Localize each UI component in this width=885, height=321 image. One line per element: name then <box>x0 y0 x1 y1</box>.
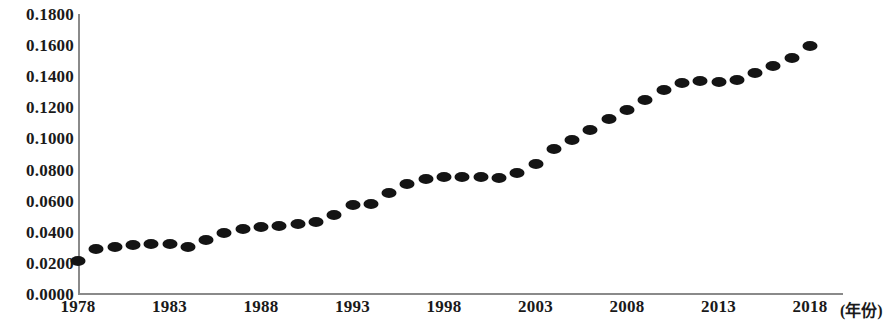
data-point <box>455 172 470 182</box>
data-point <box>473 172 488 182</box>
data-point <box>601 114 616 124</box>
data-point <box>784 53 799 63</box>
data-point <box>638 95 653 105</box>
data-point <box>327 210 342 220</box>
data-point <box>290 219 305 229</box>
data-point <box>345 200 360 210</box>
data-point <box>546 144 561 154</box>
x-axis-tick-label: 2018 <box>793 297 828 317</box>
data-point <box>254 222 269 232</box>
data-point <box>107 242 122 252</box>
x-axis-tick-label: 1998 <box>427 297 462 317</box>
data-point <box>382 188 397 198</box>
data-point <box>656 85 671 95</box>
data-point <box>620 105 635 115</box>
data-point <box>162 239 177 249</box>
x-axis-tick-label: 2008 <box>610 297 645 317</box>
data-point <box>363 199 378 209</box>
y-axis-tick-label: 0.0800 <box>2 161 74 178</box>
data-point <box>510 168 525 178</box>
y-axis-tick-label: 0.0200 <box>2 254 74 271</box>
x-axis-line <box>78 293 843 295</box>
y-axis-tick-label: 0.1600 <box>2 37 74 54</box>
data-point <box>491 173 506 183</box>
y-axis-tick-labels: 0.00000.02000.04000.06000.08000.10000.12… <box>0 0 74 319</box>
x-axis-tick-label: 2003 <box>518 297 553 317</box>
data-point <box>418 174 433 184</box>
data-point <box>583 125 598 135</box>
data-point <box>528 159 543 169</box>
data-point <box>217 228 232 238</box>
x-axis-unit-label: (年份) <box>840 297 883 321</box>
x-axis-tick-label: 2013 <box>701 297 736 317</box>
data-point <box>199 235 214 245</box>
data-point <box>235 224 250 234</box>
x-axis-tick-label: 1983 <box>152 297 187 317</box>
x-axis-tick-labels: 197819831988199319982003200820132018 <box>0 297 885 319</box>
data-point <box>729 75 744 85</box>
x-axis-tick-label: 1978 <box>61 297 96 317</box>
data-point <box>125 240 140 250</box>
y-axis-tick-label: 0.0400 <box>2 223 74 240</box>
x-axis-tick-label: 1993 <box>335 297 370 317</box>
data-point <box>748 68 763 78</box>
data-point <box>437 172 452 182</box>
data-point <box>693 76 708 86</box>
y-axis-tick-label: 0.1200 <box>2 99 74 116</box>
y-axis-tick-label: 0.1400 <box>2 68 74 85</box>
data-point <box>565 135 580 145</box>
data-point <box>400 179 415 189</box>
y-axis-tick-label: 0.0600 <box>2 192 74 209</box>
data-point <box>308 217 323 227</box>
data-point <box>711 77 726 87</box>
data-point <box>89 244 104 254</box>
data-point <box>272 221 287 231</box>
data-point <box>766 61 781 71</box>
x-axis-tick-label: 1988 <box>244 297 279 317</box>
y-axis-tick-label: 0.1000 <box>2 130 74 147</box>
y-axis-line <box>78 14 80 295</box>
data-point <box>144 239 159 249</box>
y-axis-tick-label: 0.1800 <box>2 6 74 23</box>
data-point <box>803 41 818 51</box>
data-point <box>180 242 195 252</box>
data-point <box>674 78 689 88</box>
